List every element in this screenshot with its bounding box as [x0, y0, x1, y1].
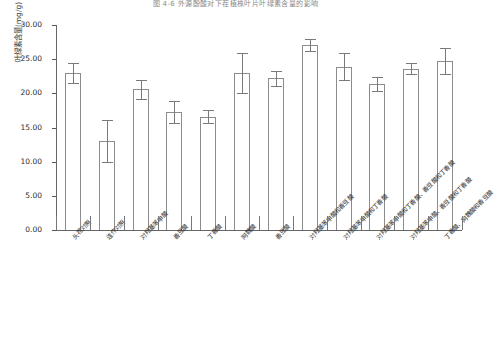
x-tick-mark [56, 216, 57, 230]
bar [133, 89, 149, 230]
error-cap-upper [203, 110, 214, 111]
error-bar [208, 110, 209, 122]
error-bar [73, 63, 74, 84]
error-cap-lower [136, 99, 147, 100]
error-bar [310, 39, 311, 51]
error-bar [242, 53, 243, 93]
plot-area [56, 0, 462, 354]
y-tick-label: 0.00 [25, 225, 42, 234]
error-cap-upper [102, 120, 113, 121]
y-tick-mark [52, 230, 56, 231]
error-bar [141, 80, 142, 99]
error-cap-lower [237, 93, 248, 94]
bar [166, 112, 182, 230]
x-tick-mark [158, 216, 159, 230]
x-tick-mark [462, 216, 463, 230]
error-bar [344, 53, 345, 80]
error-cap-lower [203, 123, 214, 124]
x-tick-mark [259, 216, 260, 230]
x-tick-mark [327, 216, 328, 230]
x-tick-mark [394, 216, 395, 230]
x-tick-mark [225, 216, 226, 230]
error-cap-lower [372, 91, 383, 92]
y-tick-mark [52, 196, 56, 197]
y-tick-mark [52, 59, 56, 60]
error-cap-upper [68, 63, 79, 64]
x-tick-mark [191, 216, 192, 230]
error-cap-lower [440, 74, 451, 75]
error-cap-upper [406, 63, 417, 64]
x-tick-mark [361, 216, 362, 230]
y-tick-label: 10.00 [21, 157, 42, 166]
error-bar [174, 101, 175, 123]
error-cap-lower [271, 86, 282, 87]
error-cap-lower [406, 74, 417, 75]
error-bar [411, 63, 412, 74]
error-cap-lower [339, 80, 350, 81]
y-tick-mark [52, 128, 56, 129]
error-cap-upper [237, 53, 248, 54]
bar [234, 73, 250, 230]
y-tick-label: 25.00 [21, 54, 42, 63]
x-tick-mark [293, 216, 294, 230]
y-tick-label: 20.00 [21, 88, 42, 97]
y-tick-mark [52, 93, 56, 94]
error-bar [445, 48, 446, 74]
y-tick-mark [52, 25, 56, 26]
x-tick-mark [90, 216, 91, 230]
x-tick-mark [124, 216, 125, 230]
error-cap-upper [136, 80, 147, 81]
bar [268, 78, 284, 230]
x-tick-mark [428, 216, 429, 230]
error-bar [276, 71, 277, 86]
y-tick-mark [52, 162, 56, 163]
error-cap-upper [372, 77, 383, 78]
error-bar [107, 120, 108, 162]
error-cap-lower [102, 162, 113, 163]
bar [65, 73, 81, 230]
error-cap-lower [305, 51, 316, 52]
y-tick-label: 15.00 [21, 123, 42, 132]
y-axis-ticks: 0.005.0010.0015.0020.0025.0030.00 [0, 0, 50, 354]
error-cap-upper [339, 53, 350, 54]
bar [302, 45, 318, 230]
y-tick-label: 5.00 [25, 191, 42, 200]
error-cap-lower [68, 83, 79, 84]
error-cap-upper [440, 48, 451, 49]
error-cap-upper [169, 101, 180, 102]
bar [200, 117, 216, 230]
error-cap-upper [305, 39, 316, 40]
error-cap-upper [271, 71, 282, 72]
error-bar [377, 77, 378, 91]
error-cap-lower [169, 123, 180, 124]
y-tick-label: 30.00 [21, 20, 42, 29]
